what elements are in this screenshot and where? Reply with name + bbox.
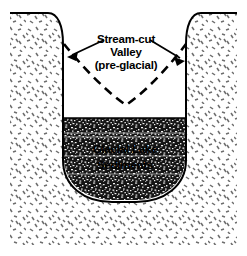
glacial-valley-figure: Stream-cut Valley (pre-glacial) Glacial … (0, 0, 247, 256)
valley-label-line-3: (pre-glacial) (95, 59, 158, 71)
valley-label-line-1: Stream-cut (97, 33, 155, 45)
sediment-label-line-2: Sediments (97, 159, 153, 171)
valley-label-line-2: Valley (110, 46, 142, 58)
figure-canvas: Stream-cut Valley (pre-glacial) Glacial … (0, 0, 247, 256)
stream-cut-valley-label: Stream-cut Valley (pre-glacial) (95, 33, 158, 71)
sediment-label-line-1: Glacial Lake (93, 143, 158, 155)
